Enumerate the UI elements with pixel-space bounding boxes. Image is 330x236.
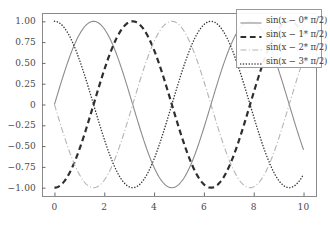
y-tick-label: −1.00 bbox=[0, 183, 36, 193]
legend-label-1: sin(x − 1* π/2) bbox=[266, 29, 327, 39]
x-tick-label: 4 bbox=[151, 202, 157, 212]
y-tick-label: 0.75 bbox=[0, 37, 36, 47]
legend-line-sample-1 bbox=[240, 28, 262, 40]
legend-item-3[interactable]: sin(x − 3* π/2) bbox=[237, 54, 321, 68]
x-tick-label: 8 bbox=[251, 202, 257, 212]
legend-label-3: sin(x − 3* π/2) bbox=[266, 56, 327, 66]
y-tick-label: 1.00 bbox=[0, 16, 36, 26]
x-tick-label: 0 bbox=[51, 202, 57, 212]
y-tick-label: −0.75 bbox=[0, 162, 36, 172]
y-tick-label: 0.25 bbox=[0, 79, 36, 89]
legend-line-sample-3 bbox=[240, 55, 262, 67]
legend-item-2[interactable]: sin(x − 2* π/2) bbox=[237, 40, 321, 54]
legend-item-0[interactable]: sin(x − 0* π/2) bbox=[237, 13, 321, 27]
legend-label-0: sin(x − 0* π/2) bbox=[266, 15, 327, 25]
x-tick-label: 10 bbox=[298, 202, 310, 212]
x-tick-label: 2 bbox=[101, 202, 107, 212]
y-tick-label: 0.50 bbox=[0, 58, 36, 68]
y-tick-label: 0 bbox=[0, 100, 36, 110]
y-tick-label: −0.25 bbox=[0, 120, 36, 130]
legend-line-sample-2 bbox=[240, 41, 262, 53]
figure-canvas: 1.000.750.500.250−0.25−0.50−0.75−1.00 02… bbox=[0, 0, 330, 236]
x-tick-label: 6 bbox=[201, 202, 207, 212]
legend-line-sample-0 bbox=[240, 14, 262, 26]
legend-label-2: sin(x − 2* π/2) bbox=[266, 42, 327, 52]
legend-item-1[interactable]: sin(x − 1* π/2) bbox=[237, 27, 321, 41]
y-tick-label: −0.50 bbox=[0, 141, 36, 151]
chart-legend: sin(x − 0* π/2)sin(x − 1* π/2)sin(x − 2*… bbox=[236, 9, 322, 68]
